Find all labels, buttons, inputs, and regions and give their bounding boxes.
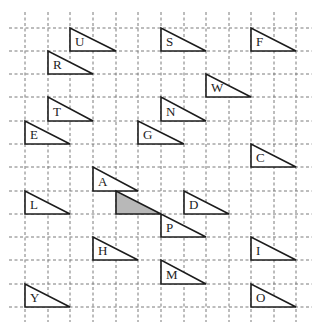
triangle-w: W <box>206 74 251 97</box>
triangle-a: A <box>93 167 138 191</box>
triangle-label: A <box>98 174 108 189</box>
triangle-label: O <box>256 290 265 305</box>
triangle-label: T <box>53 104 61 119</box>
triangle-c: C <box>251 144 296 167</box>
triangle-label: E <box>30 127 38 142</box>
triangle-label: C <box>256 150 265 165</box>
triangle-label: M <box>166 267 178 282</box>
triangle-label: Y <box>30 290 40 305</box>
triangle-label: F <box>256 34 263 49</box>
triangle-label: D <box>189 197 198 212</box>
triangle-label: S <box>166 34 173 49</box>
triangle-label: N <box>166 104 176 119</box>
triangle-label: G <box>143 127 152 142</box>
triangle-grid-diagram: USFRWTNEGCALDPHIMYO <box>0 0 318 325</box>
triangle-r: R <box>48 51 93 74</box>
triangle-label: P <box>166 220 173 235</box>
triangle-label: L <box>30 197 38 212</box>
triangle-m: M <box>161 260 206 284</box>
triangle-label: U <box>75 34 85 49</box>
triangle-label: H <box>98 243 107 258</box>
diagram-svg: USFRWTNEGCALDPHIMYO <box>0 0 318 325</box>
triangle-label: W <box>211 80 224 95</box>
triangle-label: I <box>256 243 260 258</box>
triangle-label: R <box>53 57 62 72</box>
